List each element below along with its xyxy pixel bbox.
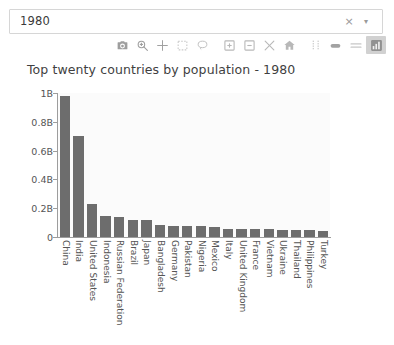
bar[interactable]	[304, 230, 314, 237]
x-axis-tick-label: Germany	[169, 240, 178, 281]
zoom-out-icon[interactable]	[239, 36, 259, 54]
x-axis-tick-label: Vietnam	[264, 240, 273, 278]
bar[interactable]	[277, 230, 287, 237]
x-axis-tick: Nigeria	[194, 240, 208, 340]
bar[interactable]	[100, 216, 110, 237]
x-axis-tick: Indonesia	[99, 240, 113, 340]
x-axis-tick: Italy	[221, 240, 235, 340]
x-axis-line	[57, 237, 331, 238]
bar[interactable]	[155, 225, 165, 237]
chart-title: Top twenty countries by population - 198…	[27, 62, 295, 77]
year-select-combobox[interactable]: 1980 × ▾	[9, 9, 383, 34]
x-axis-tick-label: Italy	[223, 240, 232, 260]
bar[interactable]	[182, 226, 192, 237]
x-axis-tick-label: Ukraine	[278, 240, 287, 275]
lasso-select-icon[interactable]	[192, 36, 212, 54]
y-axis-tick-mark	[53, 208, 57, 209]
x-axis-tick: Ukraine	[276, 240, 290, 340]
modebar-separator	[212, 36, 219, 54]
x-axis-tick: United States	[85, 240, 99, 340]
plotly-logo-icon[interactable]	[366, 36, 386, 54]
zoom-in-icon[interactable]	[219, 36, 239, 54]
x-axis-tick: United Kingdom	[235, 240, 249, 340]
x-axis-tick-label: Turkey	[319, 240, 328, 269]
pan-icon[interactable]	[152, 36, 172, 54]
download-plot-icon[interactable]	[112, 36, 132, 54]
bar[interactable]	[141, 220, 151, 237]
x-axis-tick-label: Nigeria	[196, 240, 205, 272]
bar[interactable]	[264, 229, 274, 237]
x-axis-tick: Bangladesh	[153, 240, 167, 340]
bar[interactable]	[291, 230, 301, 237]
x-axis-tick-label: Brazil	[128, 240, 137, 265]
bar[interactable]	[209, 227, 219, 237]
y-axis-tick-label: 0.6B	[31, 145, 53, 156]
bar[interactable]	[60, 96, 70, 237]
x-axis-tick: China	[58, 240, 72, 340]
x-axis-tick-label: Russian Federation	[115, 240, 124, 325]
bar[interactable]	[196, 226, 206, 237]
x-axis-tick-label: Japan	[142, 240, 151, 265]
clear-icon[interactable]: ×	[341, 10, 357, 33]
bar[interactable]	[168, 226, 178, 237]
x-axis-tick: Germany	[167, 240, 181, 340]
box-select-icon[interactable]	[172, 36, 192, 54]
hover-closest-icon[interactable]	[346, 36, 366, 54]
x-axis-tick-label: Mexico	[210, 240, 219, 271]
x-axis-tick: Philippines	[303, 240, 317, 340]
bar[interactable]	[250, 229, 260, 237]
x-axis-tick-label: Indonesia	[101, 240, 110, 284]
bar[interactable]	[223, 229, 233, 237]
bar[interactable]	[87, 204, 97, 237]
autoscale-icon[interactable]	[259, 36, 279, 54]
toggle-spike-lines-icon[interactable]	[306, 36, 326, 54]
x-axis-tick: Vietnam	[262, 240, 276, 340]
x-axis-tick: India	[72, 240, 86, 340]
modebar-separator-2	[299, 36, 306, 54]
x-axis-tick-label: United States	[87, 240, 96, 301]
y-axis-line	[57, 93, 58, 238]
bar[interactable]	[114, 217, 124, 237]
x-axis-tick: Mexico	[208, 240, 222, 340]
x-axis-tick-labels: ChinaIndiaUnited StatesIndonesiaRussian …	[58, 240, 330, 340]
x-axis-tick-label: Pakistan	[183, 240, 192, 278]
y-axis-tick-mark	[53, 93, 57, 94]
x-axis-tick: Pakistan	[180, 240, 194, 340]
x-axis-tick: Russian Federation	[112, 240, 126, 340]
x-axis-tick-label: United Kingdom	[237, 240, 246, 312]
x-axis-tick-label: India	[74, 240, 83, 262]
x-axis-tick-label: Philippines	[305, 240, 314, 289]
bar[interactable]	[73, 136, 83, 237]
x-axis-tick-label: Bangladesh	[155, 240, 164, 293]
year-select-value[interactable]: 1980	[10, 16, 341, 28]
bar-series	[58, 93, 330, 237]
y-axis-tick-label: 0.4B	[31, 174, 53, 185]
bar[interactable]	[236, 229, 246, 237]
y-axis-tick-label: 0.8B	[31, 116, 53, 127]
plot-area[interactable]	[58, 93, 330, 237]
x-axis-tick: France	[248, 240, 262, 340]
chevron-down-icon[interactable]: ▾	[358, 10, 374, 33]
y-axis-tick-label: 0.2B	[31, 203, 53, 214]
plot-modebar[interactable]	[112, 36, 386, 54]
x-axis-tick-label: China	[60, 240, 69, 266]
y-axis-tick-labels: 00.2B0.4B0.6B0.8B1B	[0, 0, 53, 345]
reset-axes-icon[interactable]	[279, 36, 299, 54]
x-axis-tick: Brazil	[126, 240, 140, 340]
y-axis-tick-mark	[53, 122, 57, 123]
x-axis-tick-label: Thailand	[291, 240, 300, 279]
hover-compare-icon[interactable]	[326, 36, 346, 54]
x-axis-tick-label: France	[251, 240, 260, 270]
y-axis-tick-label: 1B	[40, 88, 53, 99]
bar[interactable]	[128, 220, 138, 237]
x-axis-tick: Thailand	[289, 240, 303, 340]
x-axis-tick: Turkey	[316, 240, 330, 340]
zoom-icon[interactable]	[132, 36, 152, 54]
y-axis-tick-mark	[53, 179, 57, 180]
x-axis-tick: Japan	[140, 240, 154, 340]
y-axis-tick-mark	[53, 237, 57, 238]
y-axis-tick-mark	[53, 151, 57, 152]
